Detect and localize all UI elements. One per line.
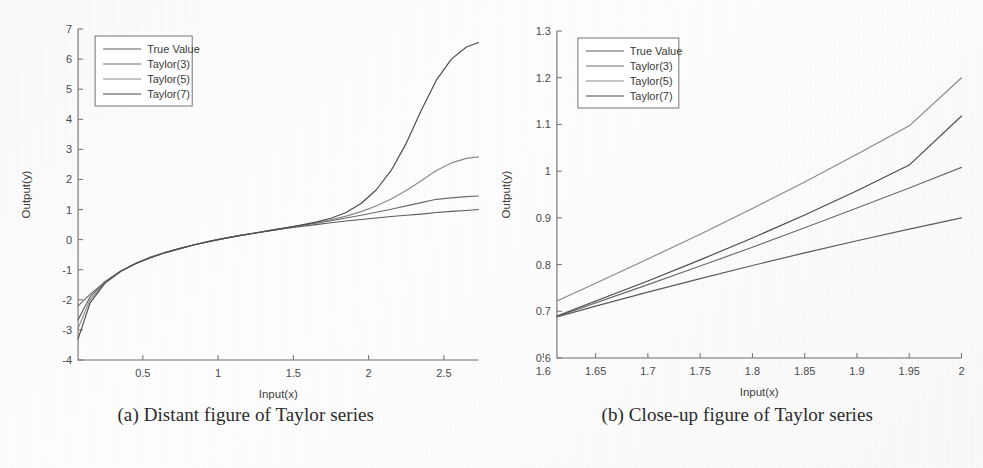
series-line-true-value [78, 210, 478, 320]
legend-label-2: Taylor(3) [147, 58, 190, 70]
x-tick-label: 1.85 [794, 365, 815, 377]
legend-label-3: Taylor(5) [629, 75, 672, 87]
y-tick-label: 5 [66, 83, 72, 95]
y-tick-label: -1 [62, 264, 72, 276]
legend-label-2: Taylor(3) [629, 60, 672, 72]
x-tick-label: 2 [958, 365, 964, 377]
y-tick-label: 0.7 [535, 305, 550, 317]
plot-b-container: 0.60.70.80.911.11.21.31.61.651.71.751.81… [492, 0, 983, 400]
y-tick-label: 1 [544, 165, 550, 177]
x-tick-label: 1 [215, 367, 221, 379]
x-tick-label: 1.8 [744, 365, 759, 377]
x-tick-label: 2.5 [436, 367, 451, 379]
y-tick-label: 1.2 [535, 72, 550, 84]
x-tick-label: 1.5 [286, 367, 301, 379]
y-axis-label: Output(y) [20, 170, 32, 218]
y-tick-label: 1.1 [535, 118, 550, 130]
x-tick-label: 2 [366, 367, 372, 379]
x-axis-label: Input(x) [739, 386, 778, 398]
plot-a-canvas: -4-3-2-1012345670.511.522.5Input(x)Outpu… [20, 23, 478, 400]
series-line-taylor-5 [78, 157, 478, 329]
subfigure-b: 0.60.70.80.911.11.21.31.61.651.71.751.81… [492, 0, 983, 468]
chart-closeup-taylor-series: 0.60.70.80.911.11.21.31.61.651.71.751.81… [492, 0, 983, 400]
series-line-taylor-3 [556, 167, 961, 316]
legend-label-3: Taylor(5) [147, 73, 190, 85]
legend-label-4: Taylor(7) [629, 90, 672, 102]
x-tick-label: 1.65 [584, 365, 605, 377]
x-tick-label: 1.95 [898, 365, 919, 377]
y-tick-label: -4 [62, 354, 72, 366]
y-tick-label: 1 [66, 204, 72, 216]
y-tick-label: -3 [62, 324, 72, 336]
series-line-taylor-5 [556, 78, 961, 301]
y-tick-label: 6 [66, 53, 72, 65]
y-tick-label: 0.9 [535, 212, 550, 224]
x-tick-label: 1.75 [689, 365, 710, 377]
x-axis-label: Input(x) [259, 388, 298, 400]
x-tick-label: 1.6 [535, 365, 550, 377]
y-tick-label: 2 [66, 173, 72, 185]
subfigure-b-caption: (b) Close-up figure of Taylor series [492, 404, 983, 426]
series-line-taylor-3 [78, 196, 478, 306]
y-axis-label: Output(y) [499, 170, 511, 218]
subfigure-a: -4-3-2-1012345670.511.522.5Input(x)Outpu… [0, 0, 492, 468]
legend-label-1: True Value [629, 45, 681, 57]
series-line-taylor-7 [556, 116, 961, 316]
series-line-true-value [556, 218, 961, 317]
subfigure-a-caption: (a) Distant figure of Taylor series [0, 404, 492, 426]
y-tick-label: 1.3 [535, 25, 550, 37]
y-tick-label: 0.8 [535, 259, 550, 271]
plot-b-canvas: 0.60.70.80.911.11.21.31.61.651.71.751.81… [499, 25, 964, 398]
y-tick-label: 4 [66, 113, 72, 125]
y-tick-label: 7 [66, 23, 72, 35]
x-tick-label: 0.5 [135, 367, 150, 379]
chart-distant-taylor-series: -4-3-2-1012345670.511.522.5Input(x)Outpu… [0, 0, 492, 400]
legend-label-1: True Value [147, 43, 200, 55]
y-tick-label: -2 [62, 294, 72, 306]
x-tick-label: 1.9 [849, 365, 864, 377]
figure-row: -4-3-2-1012345670.511.522.5Input(x)Outpu… [0, 0, 983, 468]
y-tick-label: 3 [66, 143, 72, 155]
x-tick-label: 1.7 [640, 365, 655, 377]
legend-label-4: Taylor(7) [147, 88, 190, 100]
y-tick-label: 0 [66, 234, 72, 246]
plot-a-container: -4-3-2-1012345670.511.522.5Input(x)Outpu… [0, 0, 492, 400]
